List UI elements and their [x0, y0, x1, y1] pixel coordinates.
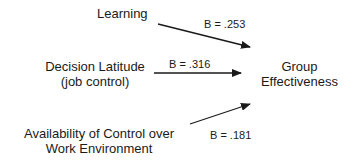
node-group-effectiveness-line1: Group: [257, 59, 342, 74]
node-group-effectiveness: Group Effectiveness: [257, 59, 342, 89]
node-learning: Learning: [97, 6, 148, 21]
coefficient-decision-latitude: B = .316: [169, 58, 210, 70]
node-decision-latitude: Decision Latitude (job control): [40, 59, 150, 89]
node-availability-control-line2: Work Environment: [18, 141, 180, 156]
arrow-availability-control-to-group-effectiveness: [190, 104, 250, 124]
node-availability-control-line1: Availability of Control over: [18, 126, 180, 141]
node-decision-latitude-line1: Decision Latitude: [40, 59, 150, 74]
path-diagram: Learning Decision Latitude (job control)…: [0, 0, 353, 162]
node-decision-latitude-line2: (job control): [40, 74, 150, 89]
coefficient-learning: B = .253: [204, 18, 245, 30]
node-group-effectiveness-line2: Effectiveness: [257, 74, 342, 89]
node-learning-label: Learning: [97, 6, 148, 21]
node-availability-control: Availability of Control over Work Enviro…: [18, 126, 180, 156]
coefficient-availability-control: B = .181: [210, 129, 251, 141]
